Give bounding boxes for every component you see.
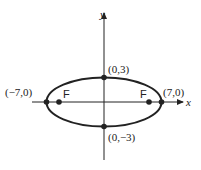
covertex-top-point bbox=[101, 75, 107, 81]
vertex-right-point bbox=[159, 99, 165, 105]
y-axis-label: y bbox=[99, 8, 105, 20]
focus-right-point bbox=[146, 99, 152, 105]
vertex-left-label: (−7,0) bbox=[5, 86, 33, 99]
covertex-bottom-point bbox=[101, 124, 107, 130]
covertex-bottom-label: (0,−3) bbox=[108, 131, 136, 144]
focus-left-point bbox=[56, 99, 62, 105]
focus-left-label: F bbox=[63, 88, 70, 100]
vertex-left-point bbox=[44, 99, 50, 105]
x-axis-label: x bbox=[185, 96, 191, 108]
ellipse-diagram: x y (−7,0) (7,0) (0,3) (0,−3) F F bbox=[0, 0, 201, 170]
focus-right-label: F bbox=[140, 88, 147, 100]
vertex-right-label: (7,0) bbox=[163, 86, 184, 99]
covertex-top-label: (0,3) bbox=[108, 63, 129, 76]
